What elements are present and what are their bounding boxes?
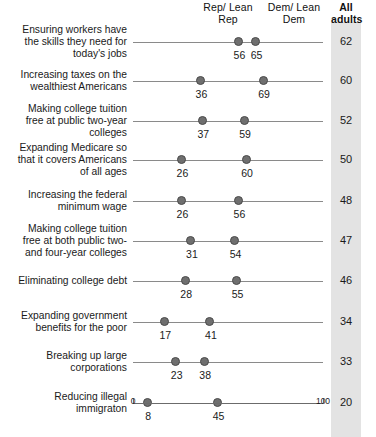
row-label: Ensuring workers have the skills they ne… [0,24,127,61]
dot-dem [205,317,214,326]
all-adults-value: 46 [331,274,361,286]
dot-dem [200,357,209,366]
row-baseline [133,81,323,82]
all-adults-value: 33 [331,355,361,367]
value-label-rep: 28 [166,288,206,300]
all-adults-value: 48 [331,194,361,206]
x-axis [133,403,323,404]
value-label-dem: 69 [244,88,284,100]
dot-rep [181,276,190,285]
value-label-rep: 26 [162,167,202,179]
dot-rep [186,236,195,245]
row-baseline [133,281,323,282]
row-label: Expanding Medicare so that it covers Ame… [0,142,127,179]
dot-dem [240,116,249,125]
row-label: Making college tuition free at public tw… [0,103,127,140]
column-header-all-adults: All adults [331,2,361,25]
all-adults-value: 60 [331,74,361,86]
x-axis-tick-max-label: 100 [308,396,338,406]
value-label-dem: 45 [199,410,239,422]
row-baseline [133,201,323,202]
value-label-dem: 38 [185,369,225,381]
dot-rep [196,76,205,85]
x-axis-tick-min-label: 0 [118,396,148,406]
value-label-dem: 55 [218,288,258,300]
dot-rep [171,357,180,366]
dot-dem [232,276,241,285]
row-baseline [133,362,323,363]
all-adults-value: 34 [331,315,361,327]
dot-rep [198,116,207,125]
value-label-dem: 41 [191,329,231,341]
row-baseline [133,121,323,122]
dot-dem [259,76,268,85]
all-adults-value: 50 [331,153,361,165]
value-label-dem: 60 [227,167,267,179]
row-label: Making college tuition free at both publ… [0,223,127,260]
dot-plot-chart: Rep/ Lean Rep Dem/ Lean Dem All adults E… [0,0,376,437]
value-label-dem: 56 [219,208,259,220]
row-label: Eliminating college debt [0,275,127,287]
value-label-rep: 26 [162,208,202,220]
value-label-dem: 65 [237,49,277,61]
dot-rep [177,196,186,205]
row-baseline [133,241,323,242]
column-header-dem: Dem/ Lean Dem [262,2,326,25]
column-header-rep: Rep/ Lean Rep [197,2,259,25]
all-adults-value: 62 [331,35,361,47]
row-label: Increasing the federal minimum wage [0,189,127,214]
all-adults-value: 52 [331,114,361,126]
value-label-rep: 37 [183,128,223,140]
value-label-rep: 31 [172,248,212,260]
value-label-dem: 59 [225,128,265,140]
value-label-dem: 54 [216,248,256,260]
dot-dem [242,155,251,164]
value-label-rep: 17 [145,329,185,341]
dot-rep [160,317,169,326]
row-label: Reducing illegal immigraton [0,391,127,416]
all-adults-value: 47 [331,234,361,246]
row-label: Breaking up large corporations [0,350,127,375]
value-label-rep: 8 [128,410,168,422]
dot-dem [213,398,222,407]
row-label: Increasing taxes on the wealthiest Ameri… [0,69,127,94]
row-baseline [133,160,323,161]
dot-dem [251,37,260,46]
dot-rep [234,37,243,46]
dot-rep [177,155,186,164]
row-baseline [133,42,323,43]
dot-dem [230,236,239,245]
value-label-rep: 36 [181,88,221,100]
row-label: Expanding government benefits for the po… [0,310,127,335]
dot-dem [234,196,243,205]
